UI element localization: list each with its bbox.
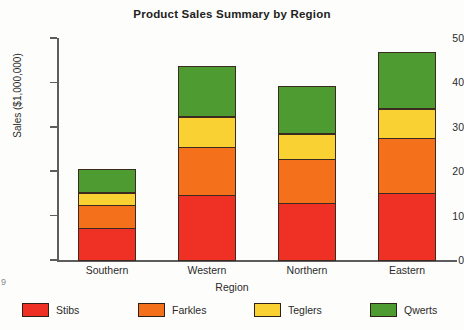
legend-label-teglers: Teglers: [288, 304, 322, 316]
y-tick-40: [50, 82, 57, 84]
bar-segment-qwerts[interactable]: [178, 66, 236, 117]
legend-item-teglers[interactable]: Teglers: [232, 303, 348, 317]
bar-stack: [78, 169, 136, 260]
legend-label-stibs: Stibs: [56, 304, 79, 316]
stacked-bar-chart: Product Sales Summary by Region 01020304…: [0, 0, 464, 330]
x-axis-title: Region: [0, 281, 464, 293]
bar-stack: [178, 66, 236, 260]
bar-group-eastern[interactable]: [378, 38, 436, 260]
legend-swatch-stibs: [22, 303, 49, 317]
bar-segment-teglers[interactable]: [178, 117, 236, 148]
legend-swatch-teglers: [254, 303, 281, 317]
bar-group-western[interactable]: [178, 38, 236, 260]
bar-segment-qwerts[interactable]: [378, 52, 436, 109]
bar-segment-teglers[interactable]: [378, 109, 436, 139]
legend-swatch-qwerts: [370, 303, 397, 317]
bar-group-southern[interactable]: [78, 38, 136, 260]
bar-segment-teglers[interactable]: [278, 134, 336, 160]
bar-segment-stibs[interactable]: [378, 193, 436, 261]
bar-segment-stibs[interactable]: [278, 203, 336, 261]
x-tick-label-eastern: Eastern: [357, 264, 457, 276]
y-tick-0: [50, 259, 57, 261]
bar-segment-farkles[interactable]: [278, 159, 336, 204]
x-tick-label-northern: Northern: [257, 264, 357, 276]
legend-label-qwerts: Qwerts: [404, 304, 437, 316]
bar-segment-stibs[interactable]: [78, 228, 136, 261]
chart-title: Product Sales Summary by Region: [0, 8, 464, 20]
bar-segment-stibs[interactable]: [178, 195, 236, 261]
bar-stack: [278, 86, 336, 260]
legend-label-farkles: Farkles: [172, 304, 206, 316]
bar-segment-teglers[interactable]: [78, 193, 136, 206]
bar-segment-farkles[interactable]: [178, 147, 236, 196]
legend-swatch-farkles: [138, 303, 165, 317]
bar-segment-farkles[interactable]: [378, 138, 436, 194]
bar-segment-qwerts[interactable]: [278, 86, 336, 134]
legend-item-farkles[interactable]: Farkles: [116, 303, 232, 317]
y-tick-10: [50, 215, 57, 217]
legend-item-stibs[interactable]: Stibs: [0, 303, 116, 317]
y-tick-50: [50, 37, 57, 39]
x-tick-label-western: Western: [157, 264, 257, 276]
y-axis-title: Sales ($1,000,000): [12, 21, 23, 171]
y-tick-30: [50, 126, 57, 128]
legend-item-qwerts[interactable]: Qwerts: [348, 303, 464, 317]
bar-stack: [378, 52, 436, 260]
y-tick-20: [50, 170, 57, 172]
bars-layer: [57, 38, 457, 260]
chart-legend: StibsFarklesTeglersQwerts: [0, 296, 464, 324]
bar-segment-qwerts[interactable]: [78, 169, 136, 193]
scan-edge-mark: 9: [1, 277, 6, 287]
x-tick-label-southern: Southern: [57, 264, 157, 276]
bar-segment-farkles[interactable]: [78, 205, 136, 229]
bar-group-northern[interactable]: [278, 38, 336, 260]
